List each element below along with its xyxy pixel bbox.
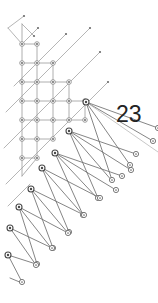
ray-tip-dot (130, 169, 132, 171)
fan-ray (42, 168, 84, 216)
lattice-node-dot (21, 43, 23, 45)
lattice-node-dot (52, 138, 54, 140)
ray-tip-dot (35, 264, 37, 266)
fan-hub-dot (30, 188, 32, 190)
ray-tip-dot (83, 214, 85, 216)
small-marker (65, 33, 67, 35)
lattice-node-dot (21, 100, 23, 102)
diagonal-edge (6, 150, 40, 184)
lattice-node-dot (52, 62, 54, 64)
small-marker (37, 27, 39, 29)
fan-hub-dot (9, 227, 11, 229)
lattice-node-dot (21, 62, 23, 64)
lattice-node-dot (52, 100, 54, 102)
lattice-node-dot (36, 100, 38, 102)
diagonal-edge (22, 28, 38, 44)
fan-ray (55, 153, 116, 190)
ray-tip-dot (115, 189, 117, 191)
ray-tip-dot (67, 232, 69, 234)
ray-tip-dot (111, 179, 113, 181)
lattice-node-dot (21, 138, 23, 140)
lattice-node-dot (36, 138, 38, 140)
lattice-node-dot (21, 119, 23, 121)
small-marker (23, 15, 25, 17)
lattice-node-dot (68, 81, 70, 83)
diagonal-edge (62, 28, 90, 56)
figure-canvas: 23 (0, 0, 158, 303)
lattice-node-dot (52, 81, 54, 83)
diagonal-edge (74, 82, 108, 116)
fan-hub-dot (54, 152, 56, 154)
fan-hub-dot (41, 167, 43, 169)
diagonal-edge (68, 52, 100, 84)
fan-ray (42, 168, 69, 232)
ray-tip-dot (51, 247, 53, 249)
small-marker (89, 27, 91, 29)
lattice-node-dot (21, 81, 23, 83)
ray-tip-dot (99, 197, 101, 199)
small-marker (99, 51, 101, 53)
lattice-node-dot (68, 119, 70, 121)
small-marker (33, 35, 35, 37)
fan-hub-dot (18, 206, 20, 208)
ray-tip-dot (129, 164, 131, 166)
lattice-node-dot (36, 81, 38, 83)
fan-ray (19, 207, 52, 249)
fan-ray (69, 131, 131, 170)
lattice-node-dot (36, 157, 38, 159)
fan-ray (55, 153, 83, 215)
diagonal-edge (8, 184, 30, 206)
small-marker (107, 81, 109, 83)
ray-tip-dot (152, 140, 154, 142)
lattice-node-dot (68, 100, 70, 102)
diagram-svg (0, 0, 158, 303)
ray-tip-dot (135, 153, 137, 155)
lattice-node-dot (36, 119, 38, 121)
callout-label-23: 23 (116, 103, 142, 126)
lattice-node-dot (21, 157, 23, 159)
fan-ray (55, 153, 122, 176)
diagonal-edge (6, 84, 34, 112)
fan-hub-dot (85, 101, 87, 103)
lattice-node-dot (84, 119, 86, 121)
hub-node-layer (5, 99, 89, 258)
fan-hub-dot (68, 130, 70, 132)
ray-tip-dot (121, 175, 123, 177)
fan-ray (55, 153, 99, 200)
lattice-node-dot (36, 62, 38, 64)
diagonal-edge (8, 28, 22, 44)
lattice-node-dot (36, 43, 38, 45)
diagonal-edge (22, 24, 34, 36)
small-marker-layer (23, 15, 109, 83)
fan-hub-dot (7, 254, 9, 256)
lattice-node-dot (52, 119, 54, 121)
ray-tip-dot (21, 281, 23, 283)
fan-ray (31, 189, 68, 233)
